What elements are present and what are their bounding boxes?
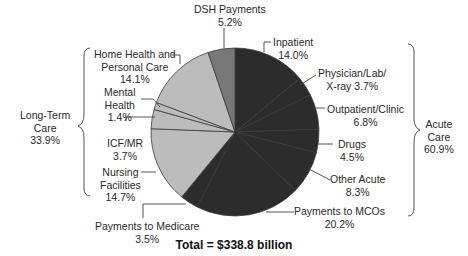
leader-inpatient [264, 42, 271, 52]
label-outpatient: Outpatient/Clinic6.8% [327, 103, 404, 128]
label-inpatient: Inpatient14.0% [273, 36, 313, 61]
label-icfmr: ICF/MR3.7% [107, 137, 143, 162]
label-dsh: DSH Payments5.2% [194, 3, 266, 28]
label-home-health: Home Health andPersonal Care14.1% [94, 48, 176, 86]
label-nursing: NursingFacilities14.7% [100, 166, 141, 204]
label-acute-care-group: AcuteCare60.9% [424, 118, 454, 156]
long-term-care-brace [78, 48, 90, 196]
label-physician: Physician/Lab/X-ray 3.7% [318, 67, 386, 92]
label-mcos: Payments to MCOs20.2% [294, 205, 385, 230]
label-other-acute: Other Acute8.3% [330, 173, 385, 198]
label-drugs: Drugs4.5% [338, 138, 366, 163]
label-mental: MentalHealth1.4% [104, 86, 136, 124]
chart-total: Total = $338.8 billion [0, 238, 468, 252]
leader-medicare [143, 204, 186, 218]
label-long-term-care-group: Long-TermCare33.9% [20, 109, 70, 147]
pie-slices [151, 48, 319, 216]
leader-other-acute [309, 169, 330, 180]
leader-physician [300, 75, 316, 85]
acute-care-brace [408, 44, 420, 216]
